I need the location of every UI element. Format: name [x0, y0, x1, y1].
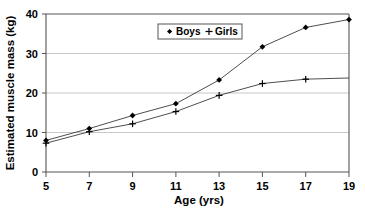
x-tick-label-7: 7: [86, 180, 92, 192]
y-tick-label-10: 10: [26, 127, 38, 139]
y-tick-label-40: 40: [26, 8, 38, 20]
x-tick-label-19: 19: [343, 180, 355, 192]
legend-label-boys: Boys: [176, 26, 201, 37]
y-axis-title: Estimated muscle mass (kg): [4, 15, 16, 170]
x-tick-label-5: 5: [43, 180, 49, 192]
x-axis-title: Age (yrs): [174, 194, 224, 206]
y-tick-label-30: 30: [26, 48, 38, 60]
x-tick-label-17: 17: [300, 180, 312, 192]
x-tick-label-11: 11: [170, 180, 182, 192]
x-tick-label-9: 9: [130, 180, 136, 192]
chart-container: 0 10 20 30 40 5 7 9 11 13 15 17 19 Age (…: [0, 0, 365, 209]
y-tick-label-0: 0: [32, 166, 38, 178]
chart-legend: Boys Girls: [158, 24, 242, 39]
y-tick-label-20: 20: [26, 87, 38, 99]
line-chart: 0 10 20 30 40 5 7 9 11 13 15 17 19 Age (…: [0, 0, 365, 209]
legend-label-girls: Girls: [215, 26, 238, 37]
x-tick-label-15: 15: [256, 180, 268, 192]
x-tick-label-13: 13: [213, 180, 225, 192]
